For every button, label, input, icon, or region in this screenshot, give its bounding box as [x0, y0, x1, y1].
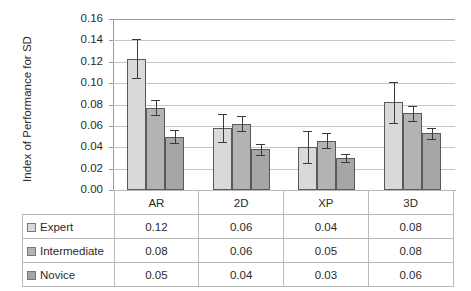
- error-bar-cap-lower: [218, 142, 227, 143]
- table-cell: 0.05: [284, 239, 369, 263]
- error-bar-cap-lower: [408, 121, 417, 122]
- error-bar-cap-lower: [151, 115, 160, 116]
- table-column-header: 2D: [199, 191, 284, 215]
- error-bar-cap-lower: [237, 131, 246, 132]
- table-row: Expert0.120.060.040.08: [23, 215, 454, 239]
- y-axis-tick-label: 0.12: [81, 56, 103, 67]
- legend-entry[interactable]: Novice: [23, 263, 115, 287]
- table-cell: 0.08: [368, 215, 453, 239]
- error-bar-line: [308, 131, 309, 163]
- bar-group: [113, 19, 199, 190]
- error-bar-line: [394, 82, 395, 123]
- error-bar-cap-upper: [132, 39, 141, 40]
- error-bar-cap-upper: [303, 131, 312, 132]
- legend-swatch-icon: [27, 271, 36, 280]
- y-axis-tick-label: 0.08: [81, 99, 103, 110]
- legend-swatch-icon: [27, 223, 36, 232]
- bar: [232, 124, 251, 190]
- bar-group: [284, 19, 370, 190]
- error-bar-cap-upper: [151, 100, 160, 101]
- legend-swatch-icon: [27, 247, 36, 256]
- legend-entry[interactable]: Intermediate: [23, 239, 115, 263]
- y-axis-tick-label: 0.06: [81, 120, 103, 131]
- table-cell: 0.06: [368, 263, 453, 287]
- y-axis-tick-label: 0.02: [81, 163, 103, 174]
- error-bar-cap-lower: [256, 155, 265, 156]
- y-axis-tick-label: 0.16: [81, 13, 103, 24]
- table-cell: 0.03: [284, 263, 369, 287]
- legend-label: Novice: [40, 269, 75, 281]
- bar-group: [199, 19, 285, 190]
- error-bar-line: [346, 154, 347, 163]
- error-bar-cap-upper: [427, 128, 436, 129]
- table-cell: 0.04: [284, 215, 369, 239]
- bar: [165, 137, 184, 190]
- data-table: AR2DXP3DExpert0.120.060.040.08Intermedia…: [22, 190, 454, 287]
- y-axis-title: Index of Performance for SD: [21, 14, 33, 204]
- table-column-header: XP: [284, 191, 369, 215]
- error-bar-cap-upper: [237, 116, 246, 117]
- bar-groups: [113, 19, 455, 190]
- bar: [403, 113, 422, 190]
- error-bar-cap-lower: [389, 123, 398, 124]
- error-bar-cap-lower: [170, 143, 179, 144]
- table-column-header: 3D: [368, 191, 453, 215]
- bar-group: [370, 19, 456, 190]
- bar: [146, 108, 165, 190]
- bar: [422, 133, 441, 190]
- error-bar-cap-lower: [427, 139, 436, 140]
- table-row: Novice0.050.040.030.06: [23, 263, 454, 287]
- error-bar-line: [432, 128, 433, 139]
- table-cell: 0.05: [114, 263, 199, 287]
- legend-label: Intermediate: [40, 245, 104, 257]
- error-bar-cap-lower: [303, 163, 312, 164]
- error-bar-line: [223, 114, 224, 142]
- y-axis-tick-label: 0.10: [81, 77, 103, 88]
- plot-area: [113, 19, 455, 190]
- error-bar-cap-upper: [218, 114, 227, 115]
- error-bar-line: [261, 144, 262, 155]
- error-bar-cap-upper: [256, 144, 265, 145]
- table-cell: 0.04: [199, 263, 284, 287]
- error-bar-cap-upper: [408, 106, 417, 107]
- y-axis-tick-label: 0.14: [81, 34, 103, 45]
- table-cell: 0.06: [199, 215, 284, 239]
- error-bar-line: [242, 116, 243, 131]
- table-cell: 0.06: [199, 239, 284, 263]
- legend-label: Expert: [40, 221, 73, 233]
- error-bar-line: [175, 130, 176, 143]
- table-cell: 0.12: [114, 215, 199, 239]
- error-bar-cap-upper: [322, 133, 331, 134]
- error-bar-line: [327, 133, 328, 148]
- error-bar-line: [137, 39, 138, 77]
- legend-entry[interactable]: Expert: [23, 215, 115, 239]
- table-cell: 0.08: [368, 239, 453, 263]
- y-axis-tick-label: 0.04: [81, 141, 103, 152]
- error-bar-line: [156, 100, 157, 115]
- error-bar-cap-lower: [132, 78, 141, 79]
- error-bar-cap-upper: [341, 154, 350, 155]
- y-axis-tick-labels: 0.160.140.120.100.080.060.040.020.00: [42, 0, 108, 196]
- table-row: Intermediate0.080.060.050.08: [23, 239, 454, 263]
- error-bar-cap-lower: [322, 148, 331, 149]
- table-column-header: AR: [114, 191, 199, 215]
- error-bar-cap-upper: [389, 82, 398, 83]
- table-header-row: AR2DXP3D: [23, 191, 454, 215]
- table-cell: 0.08: [114, 239, 199, 263]
- error-bar-cap-lower: [341, 162, 350, 163]
- error-bar-line: [413, 106, 414, 121]
- error-bar-cap-upper: [170, 130, 179, 131]
- chart-figure: Index of Performance for SD 0.160.140.12…: [0, 0, 471, 291]
- table-corner-cell: [23, 191, 115, 215]
